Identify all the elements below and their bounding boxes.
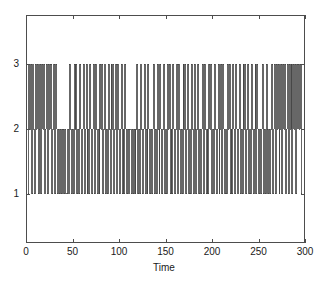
x-tick-mark (73, 15, 74, 19)
y-tick-mark (26, 194, 30, 195)
x-axis-label: Time (0, 262, 328, 274)
y-tick-mark (301, 64, 305, 65)
y-tick-mark (301, 129, 305, 130)
x-tick-mark (119, 239, 120, 243)
y-tick-label: 3 (0, 58, 19, 70)
x-tick-label: 50 (53, 246, 93, 258)
x-tick-mark (212, 15, 213, 19)
x-tick-mark (259, 15, 260, 19)
y-tick-label: 1 (0, 188, 19, 200)
x-tick-mark (73, 239, 74, 243)
x-tick-label: 100 (99, 246, 139, 258)
x-tick-mark (119, 15, 120, 19)
chart-figure: 050100150200250300 123 Time (0, 0, 328, 288)
plot-area (26, 15, 305, 243)
x-tick-label: 150 (146, 246, 186, 258)
x-tick-mark (212, 239, 213, 243)
y-tick-mark (26, 129, 30, 130)
series-line (28, 64, 302, 193)
x-tick-mark (166, 239, 167, 243)
x-tick-label: 250 (239, 246, 279, 258)
x-tick-mark (26, 239, 27, 243)
x-tick-mark (259, 239, 260, 243)
x-tick-mark (305, 239, 306, 243)
x-tick-label: 0 (6, 246, 46, 258)
y-tick-label: 2 (0, 123, 19, 135)
y-tick-mark (301, 194, 305, 195)
state-sequence-series (27, 16, 304, 242)
x-tick-label: 200 (192, 246, 232, 258)
x-tick-mark (305, 15, 306, 19)
x-tick-label: 300 (285, 246, 325, 258)
y-tick-mark (26, 64, 30, 65)
x-tick-mark (166, 15, 167, 19)
x-tick-mark (26, 15, 27, 19)
